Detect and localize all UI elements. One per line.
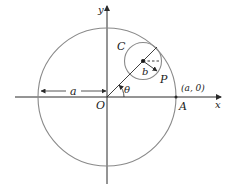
y-axis-label: y	[97, 4, 104, 15]
hypocycloid-diagram: y x O A (a, 0) a b C P θ	[0, 0, 231, 189]
theta-label: θ	[124, 84, 130, 95]
point-a-dot	[175, 96, 178, 99]
x-axis-label: x	[215, 99, 221, 110]
radius-b-label: b	[142, 66, 148, 77]
radius-a-label: a	[70, 85, 77, 98]
theta-ray	[107, 47, 157, 97]
small-circle-center	[141, 59, 145, 63]
point-a-coords-label: (a, 0)	[181, 83, 205, 93]
small-circle-label: C	[117, 40, 126, 53]
point-a-label: A	[178, 100, 187, 113]
point-p-label: P	[159, 73, 168, 86]
origin-label: O	[96, 99, 105, 112]
